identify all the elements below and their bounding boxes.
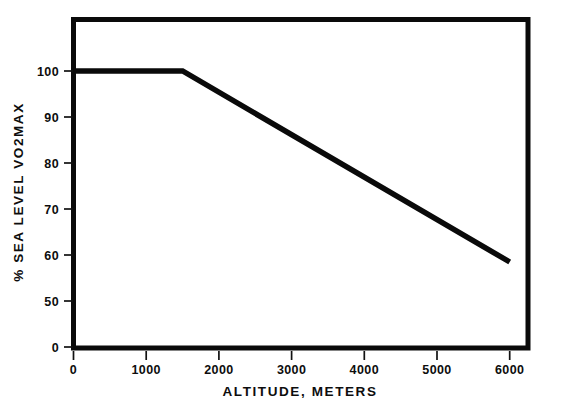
- y-axis-tick-labels: 100 90 80 70 60 50 0: [37, 65, 59, 355]
- y-tick-label-100: 100: [37, 65, 59, 79]
- x-tick-label-2000: 2000: [204, 363, 233, 377]
- x-tick-label-3000: 3000: [277, 363, 306, 377]
- vo2max-altitude-line-chart: 100 90 80 70 60 50 0 0 1000 2000 3000 40…: [0, 0, 561, 407]
- x-tick-label-6000: 6000: [495, 363, 524, 377]
- x-tick-label-1000: 1000: [131, 363, 160, 377]
- y-tick-label-70: 70: [44, 203, 59, 217]
- x-axis-title: ALTITUDE, METERS: [222, 384, 377, 399]
- x-axis-tick-labels: 0 1000 2000 3000 4000 5000 6000: [70, 363, 525, 377]
- x-axis-ticks: [74, 351, 510, 360]
- y-tick-label-90: 90: [44, 111, 59, 125]
- x-tick-label-4000: 4000: [350, 363, 379, 377]
- y-axis-title: % SEA LEVEL VO2MAX: [11, 102, 26, 282]
- y-tick-label-60: 60: [44, 249, 59, 263]
- y-tick-label-80: 80: [44, 157, 59, 171]
- data-series-vo2max: [74, 71, 510, 262]
- x-tick-label-5000: 5000: [422, 363, 451, 377]
- y-tick-label-0: 0: [52, 341, 59, 355]
- chart-figure: 100 90 80 70 60 50 0 0 1000 2000 3000 40…: [0, 0, 561, 407]
- y-tick-label-50: 50: [44, 295, 59, 309]
- x-tick-label-0: 0: [70, 363, 77, 377]
